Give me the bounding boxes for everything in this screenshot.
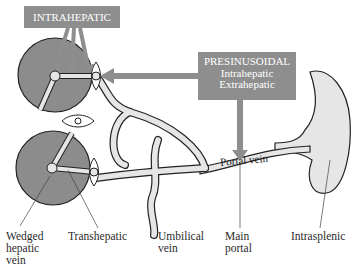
- presinusoidal-line2: Extrahepatic: [198, 79, 296, 91]
- presinusoidal-box: PRESINUSOIDAL Intrahepatic Extrahepatic: [198, 52, 296, 100]
- label-main-portal: Main portal: [225, 230, 252, 254]
- label-intrasplenic: Intrasplenic: [291, 230, 345, 242]
- presinusoidal-title: PRESINUSOIDAL: [198, 56, 296, 68]
- portal-circulation-diagram: [0, 0, 359, 264]
- eye-icon: [62, 115, 94, 127]
- label-umbilical-vein: Umbilical vein: [158, 230, 204, 254]
- label-wedged-hepatic-vein: Wedged hepatic vein: [6, 230, 43, 264]
- intrahepatic-title: INTRAHEPATIC: [33, 11, 111, 23]
- label-transhepatic: Transhepatic: [68, 230, 127, 242]
- intrahepatic-box: INTRAHEPATIC: [24, 6, 120, 28]
